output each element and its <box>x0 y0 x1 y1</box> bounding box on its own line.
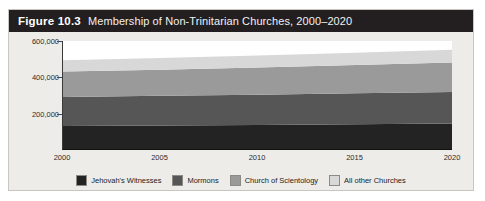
y-axis-tick-label: 400,000 <box>32 73 59 82</box>
legend-item: Mormons <box>172 175 218 186</box>
chart-legend: Jehovah's WitnessesMormonsChurch of Scie… <box>9 170 473 190</box>
x-axis-tick-label: 2000 <box>54 153 71 162</box>
x-axis-labels: 20002005201020152020 <box>62 153 452 167</box>
legend-label: Mormons <box>187 176 218 185</box>
legend-swatch <box>76 175 87 186</box>
y-axis-tick-label: 600,000 <box>32 37 59 46</box>
figure-title: Membership of Non-Trinitarian Churches, … <box>88 15 352 27</box>
legend-label: All other Churches <box>344 176 406 185</box>
area-bands <box>63 41 452 150</box>
legend-item: All other Churches <box>329 175 406 186</box>
y-axis-labels: 200,000400,000600,000 <box>15 32 59 192</box>
legend-item: Jehovah's Witnesses <box>76 175 161 186</box>
legend-item: Church of Scientology <box>230 175 318 186</box>
legend-swatch <box>329 175 340 186</box>
legend-swatch <box>172 175 183 186</box>
stacked-area-plot <box>62 41 452 150</box>
figure-title-bar: Figure 10.3 Membership of Non-Trinitaria… <box>9 10 473 32</box>
chart-area: 200,000400,000600,000 200020052010201520… <box>9 32 473 192</box>
area-band <box>63 92 452 126</box>
x-axis-tick-label: 2015 <box>346 153 363 162</box>
y-axis-tick-label: 200,000 <box>32 109 59 118</box>
x-axis-tick-label: 2005 <box>151 153 168 162</box>
area-band <box>63 123 452 150</box>
legend-swatch <box>230 175 241 186</box>
x-axis-tick-label: 2020 <box>444 153 461 162</box>
legend-label: Church of Scientology <box>245 176 318 185</box>
legend-label: Jehovah's Witnesses <box>91 176 161 185</box>
figure-card: Figure 10.3 Membership of Non-Trinitaria… <box>8 9 474 191</box>
x-axis-tick-label: 2010 <box>249 153 266 162</box>
figure-number: Figure 10.3 <box>18 15 81 27</box>
